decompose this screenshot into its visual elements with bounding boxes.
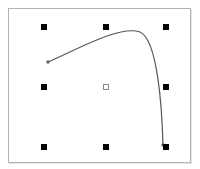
resize-handle-top-center[interactable] bbox=[103, 24, 109, 30]
resize-handle-top-left[interactable] bbox=[41, 24, 47, 30]
bezier-curve[interactable] bbox=[0, 0, 200, 169]
resize-handle-top-right[interactable] bbox=[163, 24, 169, 30]
resize-handle-middle-right[interactable] bbox=[163, 84, 169, 90]
resize-handle-middle-left[interactable] bbox=[41, 84, 47, 90]
resize-handle-bottom-left[interactable] bbox=[41, 144, 47, 150]
resize-handle-bottom-center[interactable] bbox=[103, 144, 109, 150]
center-x-marker-icon[interactable] bbox=[103, 84, 109, 90]
curve-start-point-icon[interactable] bbox=[46, 60, 50, 64]
resize-handle-bottom-right[interactable] bbox=[163, 144, 169, 150]
